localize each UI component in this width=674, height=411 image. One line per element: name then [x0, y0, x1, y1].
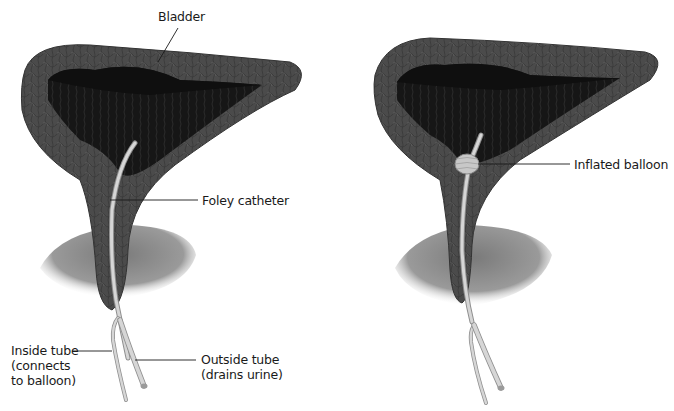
inflated-balloon-label: Inflated balloon: [574, 157, 668, 172]
diagram-artwork: [0, 0, 674, 411]
right-bladder-illustration: [374, 38, 658, 403]
outside-tube: [120, 320, 144, 386]
inflated-balloon: [455, 154, 479, 174]
outside-tube-label: Outside tube (drains urine): [201, 352, 283, 382]
foley-catheter-diagram: Bladder Foley catheter Inside tube (conn…: [0, 0, 674, 411]
bladder-label: Bladder: [158, 9, 205, 24]
pelvic-floor: [395, 225, 552, 306]
inside-tube-label: Inside tube (connects to balloon): [11, 343, 78, 388]
foley-catheter-label: Foley catheter: [202, 193, 289, 208]
